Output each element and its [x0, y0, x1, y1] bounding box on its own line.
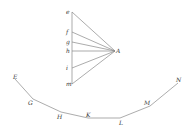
curve-label: H	[57, 114, 62, 120]
curve-label: E	[13, 74, 17, 80]
curve-label: L	[119, 120, 123, 126]
point-label: f	[66, 29, 68, 35]
ray-line	[72, 51, 115, 68]
point-label: i	[66, 65, 68, 71]
point-label: e	[66, 9, 70, 15]
point-label: h	[66, 48, 70, 54]
ray-line	[72, 42, 115, 51]
ray-line	[72, 12, 115, 51]
curve-segment	[33, 99, 61, 112]
curve-label: G	[28, 100, 33, 106]
curve-segment	[120, 106, 150, 118]
point-label: g	[66, 39, 70, 45]
curve-label: K	[86, 112, 90, 118]
diagram: efghimAEGHKLMN	[0, 0, 193, 136]
curve-label: M	[144, 100, 150, 106]
ray-line	[72, 32, 115, 51]
apex-label: A	[116, 48, 120, 54]
point-label: m	[66, 81, 72, 87]
curve-label: N	[176, 77, 181, 83]
curve-segment	[150, 83, 178, 106]
ray-line	[72, 51, 115, 84]
curve-segment	[61, 112, 88, 118]
diagram-lines	[0, 0, 193, 136]
curve-segment	[15, 79, 33, 99]
